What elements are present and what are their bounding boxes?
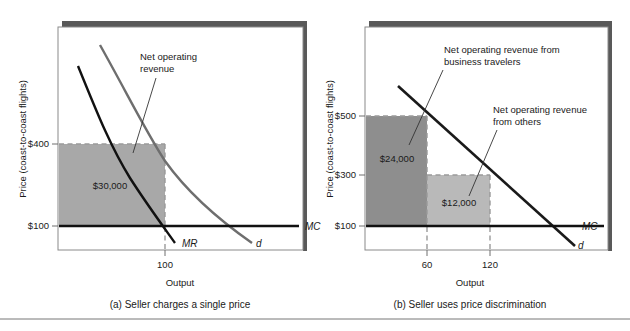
panel-b-annotation2-line1: Net operating revenue xyxy=(493,104,587,115)
panel-b-ylabel-500: $500 xyxy=(335,110,356,121)
panel-a-area-label-30000: $30,000 xyxy=(93,180,127,191)
panel-b-caption: (b) Seller uses price discrimination xyxy=(394,299,547,310)
panel-a: $400 $100 100 Price (coast-to-coast flig… xyxy=(17,21,321,310)
panel-b-area-label-12000: $12,000 xyxy=(442,197,476,208)
panel-b-x-axis-title: Output xyxy=(456,277,485,288)
panel-b: $500 $300 $100 60 120 Price (coast-to-co… xyxy=(324,21,612,310)
panel-a-caption: (a) Seller charges a single price xyxy=(110,299,251,310)
panel-b-area-label-24000: $24,000 xyxy=(380,153,414,164)
panel-a-label-d: d xyxy=(256,238,262,249)
panel-a-ylabel-400: $400 xyxy=(28,138,49,149)
panel-b-y-axis-title: Price (coast-to-coast flights) xyxy=(324,80,335,198)
panel-b-business-revenue-rectangle xyxy=(366,116,427,226)
panel-a-annotation-line1: Net operating xyxy=(140,51,197,62)
panel-b-xlabel-120: 120 xyxy=(482,259,498,270)
panel-a-label-mc: MC xyxy=(305,221,321,232)
panel-a-label-mr: MR xyxy=(182,238,198,249)
panel-a-x-axis-title: Output xyxy=(166,277,195,288)
panel-b-label-d: d xyxy=(578,240,584,251)
panel-a-annotation-line2: revenue xyxy=(140,63,174,74)
panel-b-right-shadow-bar xyxy=(608,21,612,251)
panel-b-ylabel-100: $100 xyxy=(335,220,356,231)
panel-a-xlabel-100: 100 xyxy=(157,259,173,270)
panel-b-annotation2-line2: from others xyxy=(493,116,541,127)
panel-b-xlabel-60: 60 xyxy=(422,259,433,270)
figure-svg: $400 $100 100 Price (coast-to-coast flig… xyxy=(0,0,630,331)
figure-container: $400 $100 100 Price (coast-to-coast flig… xyxy=(0,0,630,331)
panel-b-label-mc: MC xyxy=(582,221,598,232)
panel-a-right-shadow-bar xyxy=(303,21,307,251)
panel-b-annotation1-line1: Net operating revenue from xyxy=(444,44,560,55)
panel-a-y-axis-title: Price (coast-to-coast flights) xyxy=(17,80,28,198)
panel-b-ylabel-300: $300 xyxy=(335,169,356,180)
panel-a-ylabel-100: $100 xyxy=(28,220,49,231)
panel-b-annotation1-line2: business travelers xyxy=(444,56,521,67)
